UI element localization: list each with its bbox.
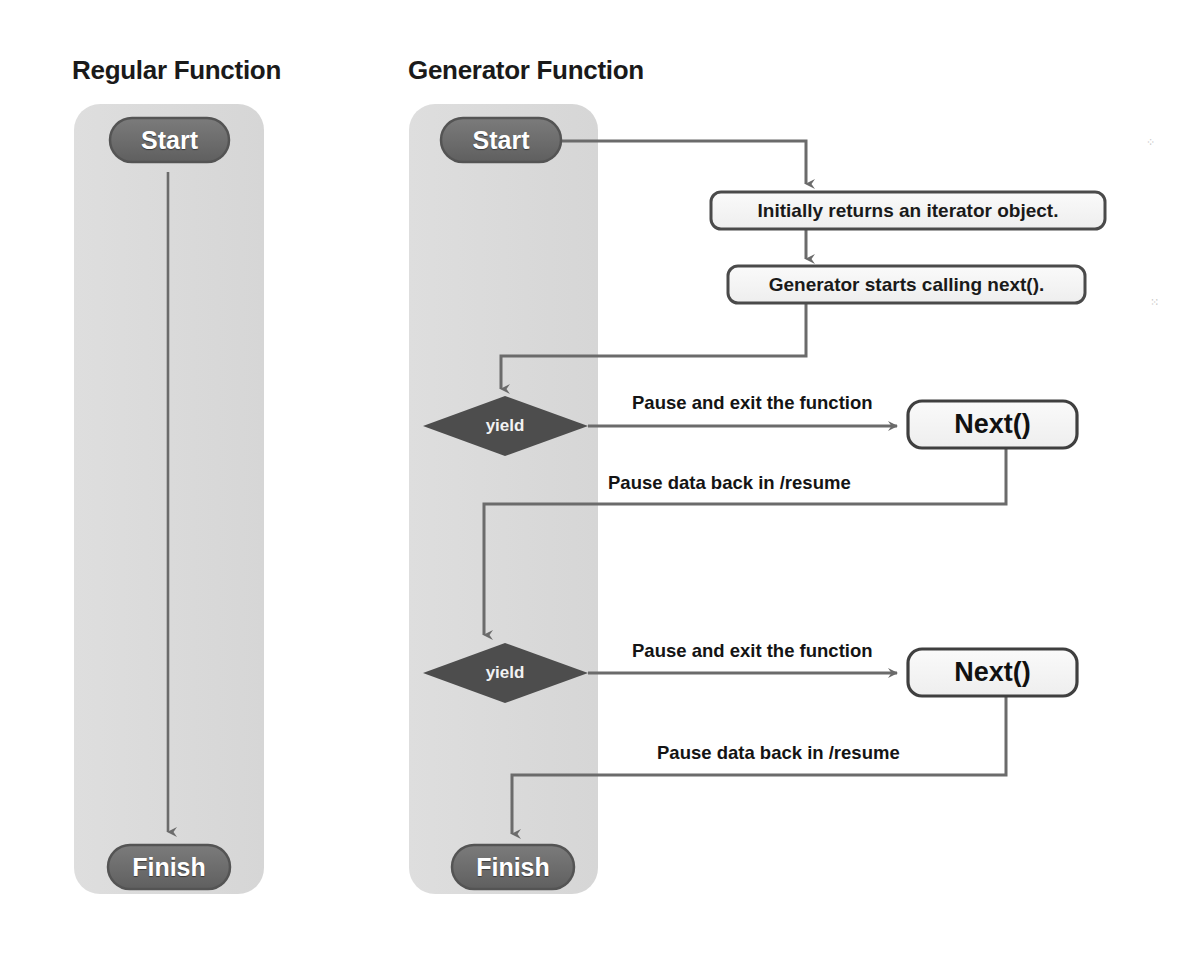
edge-label-pause-exit-2: Pause and exit the function: [632, 640, 873, 662]
scan-speck-mid: ⁙: [1150, 296, 1159, 309]
generator-start-pill[interactable]: [441, 118, 561, 162]
next-call-box-2[interactable]: [908, 649, 1077, 696]
generator-finish-pill[interactable]: [452, 845, 574, 889]
edge-label-resume-2: Pause data back in /resume: [657, 742, 900, 764]
process-box-initial-iterator[interactable]: [711, 192, 1105, 229]
process-box-generator-next[interactable]: [728, 266, 1085, 303]
next-call-box-1[interactable]: [908, 401, 1077, 448]
scan-speck-top: ⁘: [1146, 136, 1155, 149]
regular-finish-pill[interactable]: [108, 845, 230, 889]
heading-generator-function: Generator Function: [408, 55, 644, 86]
diagram-canvas: [0, 0, 1193, 959]
heading-regular-function: Regular Function: [72, 55, 281, 86]
flowchart-diagram: Regular Function Generator Function Star…: [0, 0, 1193, 959]
edge-label-resume-1: Pause data back in /resume: [608, 472, 851, 494]
regular-start-pill[interactable]: [110, 118, 229, 162]
edge-label-pause-exit-1: Pause and exit the function: [632, 392, 873, 414]
